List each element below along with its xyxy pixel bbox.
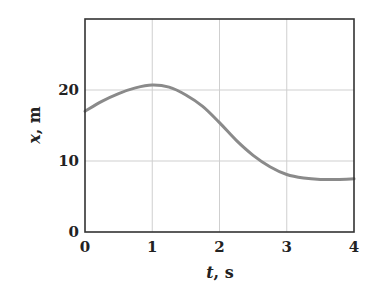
x-axis-label: t, s — [206, 263, 234, 282]
y-tick-label: 10 — [58, 152, 79, 170]
y-axis-label: x, m — [25, 106, 44, 145]
gridlines — [85, 19, 354, 232]
position-time-chart: 01234 01020 t, s x, m — [0, 0, 371, 297]
x-tick-labels: 01234 — [80, 238, 359, 256]
y-axis-variable: x — [25, 134, 44, 145]
x-tick-label: 0 — [80, 238, 90, 256]
x-axis-unit: , s — [214, 263, 234, 282]
x-tick-label: 2 — [214, 238, 224, 256]
x-tick-label: 1 — [147, 238, 157, 256]
y-tick-labels: 01020 — [58, 81, 79, 241]
y-tick-label: 0 — [69, 223, 79, 241]
y-tick-label: 20 — [58, 81, 79, 99]
x-tick-label: 3 — [282, 238, 292, 256]
x-tick-label: 4 — [349, 238, 359, 256]
y-axis-unit: , m — [25, 106, 44, 134]
